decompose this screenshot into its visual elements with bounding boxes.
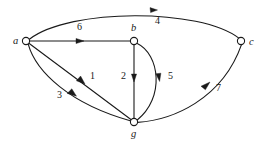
edge-g-c-arrowhead — [201, 82, 210, 90]
edge-a-b-arrowhead — [76, 38, 84, 43]
edge-weight-a-b: 6 — [77, 21, 82, 32]
edge-a-g-1 — [29, 43, 132, 120]
node-label-g: g — [131, 128, 136, 139]
node-a[interactable] — [22, 37, 29, 44]
edge-a-g-3 — [28, 44, 131, 121]
edge-weight-a-g-1: 1 — [90, 70, 95, 81]
edge-weight-b-g-2: 2 — [121, 70, 126, 81]
edge-weight-a-g-3: 3 — [57, 89, 62, 100]
node-label-a: a — [13, 35, 18, 46]
edge-g-c — [138, 44, 242, 122]
node-b[interactable] — [130, 37, 137, 44]
edge-b-g-2-arrowhead — [131, 74, 136, 82]
graph-figure: a b c g 4 6 1 3 2 5 7 — [0, 0, 265, 144]
node-g[interactable] — [130, 118, 137, 125]
edge-a-g-1-arrowhead — [76, 76, 85, 84]
edge-a-c-arrowhead — [150, 8, 158, 13]
edge-weight-a-c: 4 — [155, 15, 160, 26]
edge-weight-b-g-5: 5 — [168, 70, 173, 81]
edge-b-g-5 — [137, 43, 161, 120]
edge-b-g-5-path — [137, 43, 156, 120]
node-c[interactable] — [237, 37, 244, 44]
edge-weight-g-c: 7 — [216, 82, 221, 93]
edge-a-b — [30, 38, 131, 43]
edge-b-g-2 — [131, 45, 136, 119]
edge-g-c-path — [138, 44, 242, 122]
node-label-b: b — [131, 22, 136, 33]
node-label-c: c — [249, 36, 254, 47]
graph-canvas: a b c g 4 6 1 3 2 5 7 — [0, 0, 265, 144]
edge-a-g-3-path — [28, 44, 131, 121]
